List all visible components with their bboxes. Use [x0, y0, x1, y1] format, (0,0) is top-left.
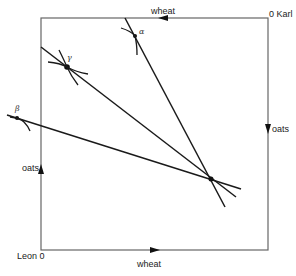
gamma-curve-2: [48, 62, 88, 74]
arrow-right-oats-icon: [265, 124, 271, 134]
beta-curve: [10, 117, 30, 131]
arrow-bottom-wheat-icon: [150, 247, 160, 253]
alpha-label: α: [139, 27, 144, 36]
gamma-line: [41, 47, 236, 197]
origin-karl: 0 Karl: [269, 9, 293, 19]
top-wheat-label: wheat: [151, 6, 175, 16]
left-oats-label: oats: [22, 163, 39, 173]
alpha-curve: [121, 28, 137, 55]
gamma-label: γ: [67, 53, 72, 62]
beta-label: β: [15, 104, 20, 113]
right-oats-label: oats: [272, 124, 289, 134]
edgeworth-box-diagram: [0, 0, 296, 276]
intersection-point: [209, 177, 214, 182]
bottom-wheat-label: wheat: [137, 259, 161, 269]
origin-leon: Leon 0: [17, 251, 45, 261]
beta-line: [7, 115, 241, 189]
